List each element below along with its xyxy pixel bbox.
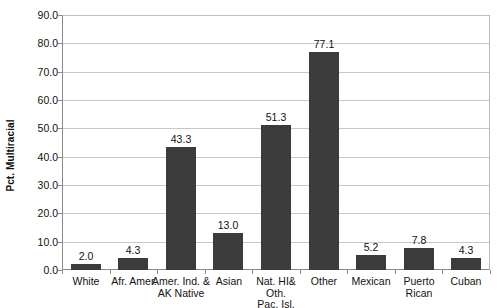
bar-value-label: 4.3 — [108, 245, 158, 256]
x-axis-tick-label: Cuban — [436, 276, 496, 288]
bar — [71, 264, 101, 270]
x-axis-tick-mark — [252, 270, 253, 274]
bar-value-label: 5.2 — [346, 242, 396, 253]
y-axis-tick-mark — [58, 157, 62, 158]
x-axis-tick-mark — [157, 270, 158, 274]
gridline — [63, 43, 489, 44]
y-axis-tick-label: 0.0 — [14, 265, 58, 276]
gridline — [63, 72, 489, 73]
y-axis-tick-label: 20.0 — [14, 208, 58, 219]
x-axis-tick-mark — [110, 270, 111, 274]
gridline — [63, 100, 489, 101]
bar-value-label: 4.3 — [441, 245, 491, 256]
y-axis-tick-label: 10.0 — [14, 237, 58, 248]
y-axis-tick-mark — [58, 128, 62, 129]
x-axis-tick-mark — [205, 270, 206, 274]
bar-value-label: 51.3 — [251, 112, 301, 123]
bar-value-label: 43.3 — [156, 134, 206, 145]
y-axis-tick-label: 80.0 — [14, 38, 58, 49]
x-axis-tick-mark — [62, 270, 63, 274]
bar-chart: Pct. Multiracial 0.010.020.030.040.050.0… — [0, 0, 503, 308]
y-axis-tick-label: 70.0 — [14, 67, 58, 78]
y-axis-tick-mark — [58, 43, 62, 44]
bar — [404, 248, 434, 270]
bar — [356, 255, 386, 270]
bar-value-label: 7.8 — [394, 235, 444, 246]
y-axis-tick-mark — [58, 72, 62, 73]
y-axis-tick-mark — [58, 15, 62, 16]
x-axis-tick-mark — [347, 270, 348, 274]
y-axis-tick-mark — [58, 242, 62, 243]
x-axis-tick-mark — [490, 270, 491, 274]
y-axis-tick-labels: 0.010.020.030.040.050.060.070.080.090.0 — [12, 0, 58, 308]
bar — [309, 52, 339, 270]
y-axis-tick-mark — [58, 185, 62, 186]
bar — [166, 147, 196, 270]
y-axis-tick-label: 60.0 — [14, 95, 58, 106]
bar — [261, 125, 291, 270]
y-axis-tick-label: 90.0 — [14, 10, 58, 21]
bar-value-label: 2.0 — [61, 251, 111, 262]
bar — [213, 233, 243, 270]
bar-value-label: 77.1 — [299, 39, 349, 50]
x-axis-tick-mark — [442, 270, 443, 274]
y-axis-tick-label: 30.0 — [14, 180, 58, 191]
y-axis-tick-mark — [58, 213, 62, 214]
x-axis-tick-mark — [395, 270, 396, 274]
bar — [451, 258, 481, 270]
x-axis-tick-mark — [300, 270, 301, 274]
bar-value-label: 13.0 — [203, 220, 253, 231]
y-axis-tick-mark — [58, 100, 62, 101]
y-axis-tick-label: 40.0 — [14, 152, 58, 163]
y-axis-tick-label: 50.0 — [14, 123, 58, 134]
bar — [118, 258, 148, 270]
